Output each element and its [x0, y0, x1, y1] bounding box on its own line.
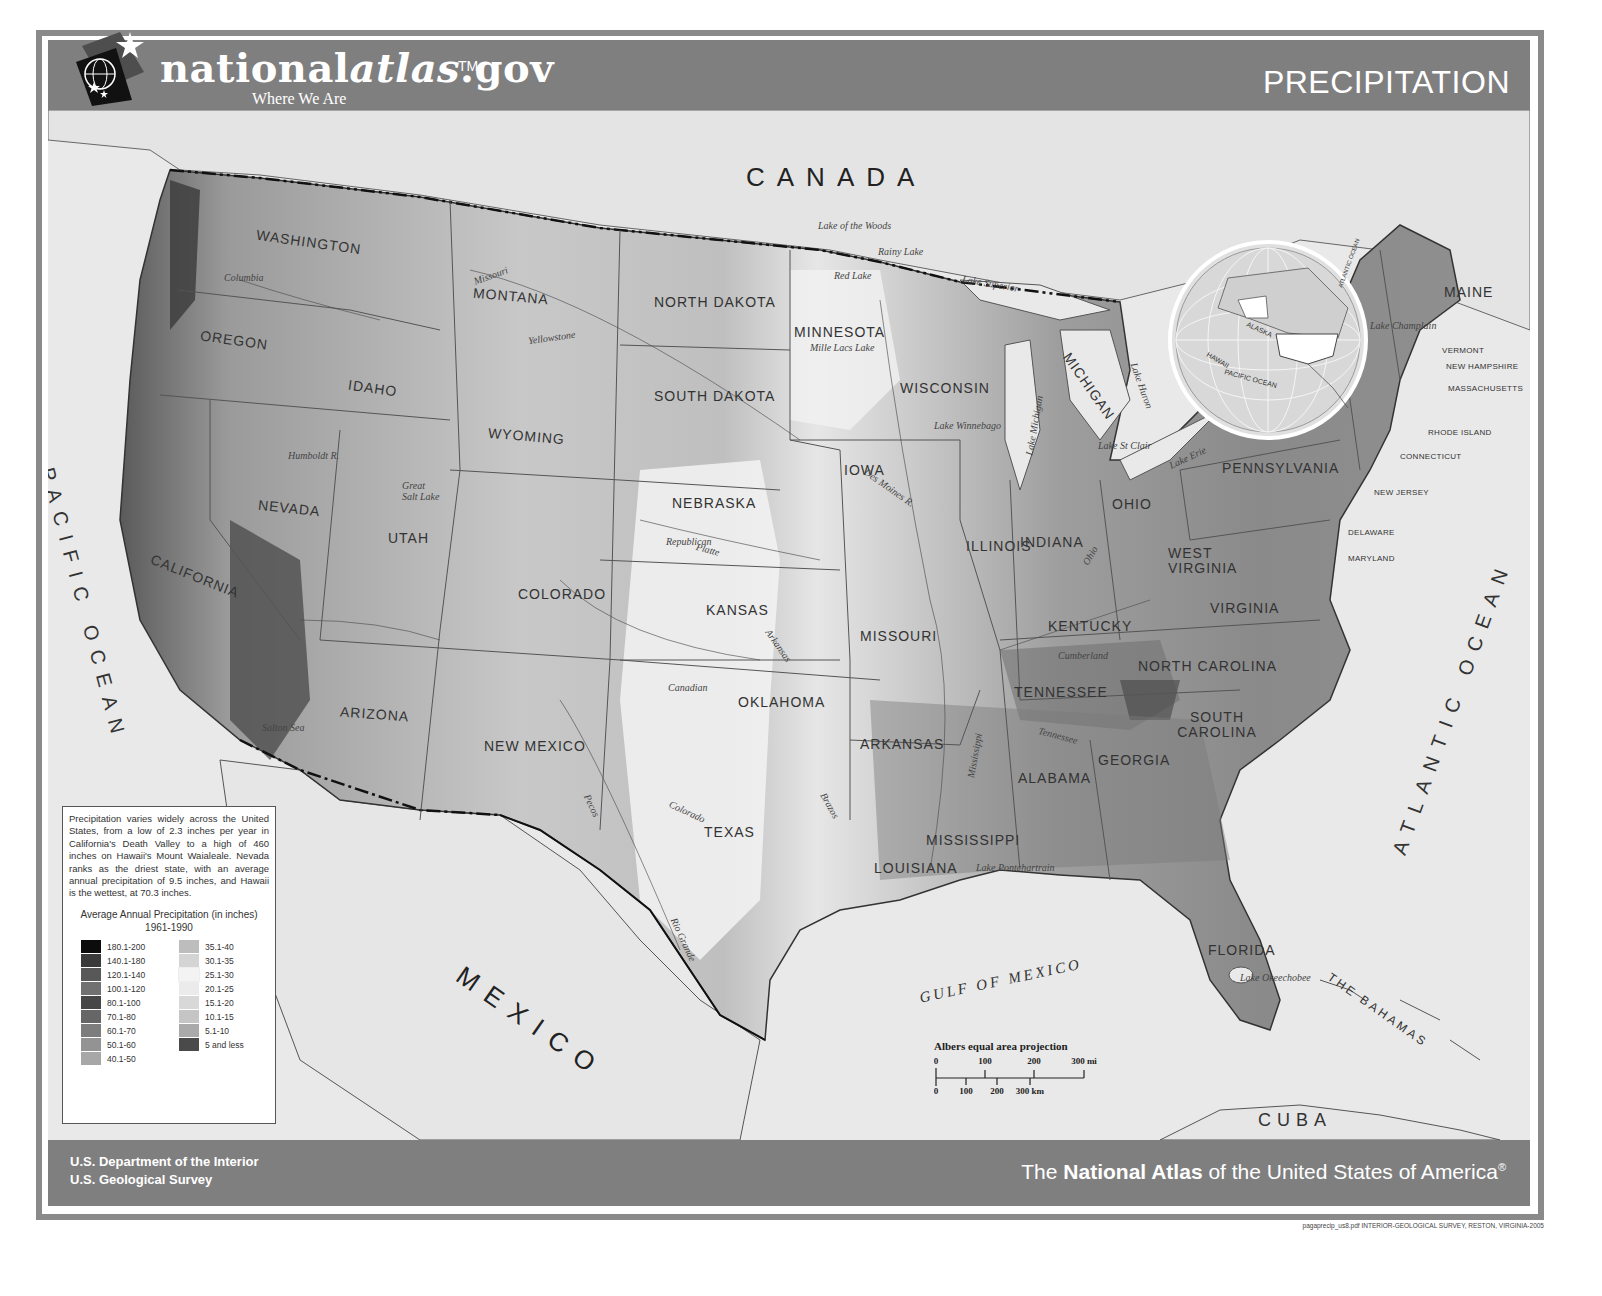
- label-wisconsin: WISCONSIN: [900, 380, 990, 396]
- legend-item: 50.1-60: [81, 1038, 171, 1052]
- svg-text:300 km: 300 km: [1016, 1086, 1045, 1096]
- label-kansas: KANSAS: [706, 602, 769, 618]
- legend-swatch: [81, 968, 101, 981]
- label-missouri: MISSOURI: [860, 628, 937, 644]
- svg-text:0: 0: [934, 1056, 939, 1066]
- legend-item: 60.1-70: [81, 1024, 171, 1038]
- label-new-jersey: NEW JERSEY: [1374, 488, 1429, 497]
- label-canadian-river: Canadian: [668, 682, 707, 693]
- legend-swatch: [179, 1038, 199, 1051]
- label-cuba: CUBA: [1258, 1110, 1332, 1131]
- label-ohio: OHIO: [1112, 496, 1152, 512]
- label-massachusetts: MASSACHUSETTS: [1448, 384, 1523, 393]
- nationalatlas-logo-icon[interactable]: [72, 26, 150, 106]
- label-great-salt-lake: Great Salt Lake: [402, 480, 442, 502]
- legend-description: Precipitation varies widely across the U…: [69, 813, 269, 900]
- legend-swatch: [81, 1052, 101, 1065]
- legend-swatch: [179, 940, 199, 953]
- legend-item: 5 and less: [179, 1038, 269, 1052]
- legend-swatch: [81, 1010, 101, 1023]
- label-canada: CANADA: [746, 162, 926, 193]
- label-lake-of-the-woods: Lake of the Woods: [818, 220, 891, 231]
- label-maine: MAINE: [1444, 284, 1493, 300]
- label-lake-winnebago: Lake Winnebago: [934, 420, 1001, 431]
- legend-item: 100.1-120: [81, 982, 171, 996]
- legend-swatch: [179, 1010, 199, 1023]
- legend-swatch: [81, 982, 101, 995]
- svg-text:ATLANTIC OCEAN: ATLANTIC OCEAN: [1337, 238, 1360, 288]
- label-pennsylvania: PENNSYLVANIA: [1222, 460, 1339, 476]
- label-cumberland-river: Cumberland: [1058, 650, 1108, 661]
- label-rhode-island: RHODE ISLAND: [1428, 428, 1492, 437]
- legend-item: 10.1-15: [179, 1010, 269, 1024]
- legend-swatch: [81, 996, 101, 1009]
- label-minnesota: MINNESOTA: [794, 324, 885, 340]
- legend-swatch: [81, 1024, 101, 1037]
- label-oklahoma: OKLAHOMA: [738, 694, 825, 710]
- svg-text:100: 100: [959, 1086, 973, 1096]
- legend-swatch: [81, 1038, 101, 1051]
- legend-swatch: [179, 996, 199, 1009]
- label-kentucky: KENTUCKY: [1048, 618, 1132, 634]
- label-alabama: ALABAMA: [1018, 770, 1091, 786]
- scale-bar-graphic: 0 100 200 300 mi 0 100 200 300 km: [934, 1052, 1114, 1100]
- svg-text:200: 200: [1027, 1056, 1041, 1066]
- legend-swatch: [81, 954, 101, 967]
- label-republican-river: Republican: [666, 536, 712, 547]
- legend-item: 140.1-180: [81, 954, 171, 968]
- label-south-carolina: SOUTH CAROLINA: [1172, 710, 1262, 740]
- legend-item: 35.1-40: [179, 940, 269, 954]
- legend-item: 5.1-10: [179, 1024, 269, 1038]
- label-lake-pontchartrain: Lake Pontchartrain: [976, 862, 1055, 873]
- label-florida: FLORIDA: [1208, 942, 1276, 958]
- label-utah: UTAH: [388, 530, 429, 546]
- label-maryland: MARYLAND: [1348, 554, 1395, 563]
- legend-panel: Precipitation varies widely across the U…: [62, 806, 276, 1124]
- legend-swatch: [179, 1024, 199, 1037]
- svg-text:300 mi: 300 mi: [1071, 1056, 1097, 1066]
- fineprint-credit: pagaprecip_us8.pdf INTERIOR-GEOLOGICAL S…: [1303, 1222, 1544, 1229]
- legend-swatch: [179, 968, 199, 981]
- label-north-carolina: NORTH CAROLINA: [1138, 658, 1277, 674]
- projection-label: Albers equal area projection: [934, 1040, 1114, 1052]
- label-georgia: GEORGIA: [1098, 752, 1170, 768]
- legend-item: 70.1-80: [81, 1010, 171, 1024]
- label-west-virginia: WEST VIRGINIA: [1168, 546, 1238, 576]
- legend-item: 15.1-20: [179, 996, 269, 1010]
- label-texas: TEXAS: [704, 824, 755, 840]
- label-nebraska: NEBRASKA: [672, 495, 756, 511]
- svg-text:100: 100: [978, 1056, 992, 1066]
- legend-item: 120.1-140: [81, 968, 171, 982]
- label-colorado: COLORADO: [518, 586, 606, 602]
- site-name[interactable]: nationalatlas.gov: [160, 48, 554, 88]
- label-rainy-lake: Rainy Lake: [878, 246, 923, 257]
- label-indiana: INDIANA: [1020, 534, 1084, 550]
- label-north-dakota: NORTH DAKOTA: [654, 294, 776, 310]
- label-connecticut: CONNECTICUT: [1400, 452, 1462, 461]
- label-mississippi: MISSISSIPPI: [926, 832, 1020, 848]
- label-humboldt-river: Humboldt R.: [288, 450, 339, 461]
- inset-globe: ALASKA HAWAII PACIFIC OCEAN ATLANTIC OCE…: [1168, 238, 1368, 442]
- legend-item: 180.1-200: [81, 940, 171, 954]
- site-tagline: Where We Are: [252, 90, 346, 108]
- label-virginia: VIRGINIA: [1210, 600, 1279, 616]
- legend-item: 30.1-35: [179, 954, 269, 968]
- agency-line-2: U.S. Geological Survey: [70, 1171, 259, 1189]
- legend-swatch: [179, 982, 199, 995]
- svg-text:200: 200: [990, 1086, 1004, 1096]
- label-red-lake: Red Lake: [834, 270, 872, 281]
- legend-swatch: [81, 940, 101, 953]
- label-new-hampshire: NEW HAMPSHIRE: [1446, 362, 1518, 371]
- label-columbia-river: Columbia: [224, 272, 263, 283]
- label-lake-st-clair: Lake St Clair: [1098, 440, 1151, 451]
- label-mille-lacs-lake: Mille Lacs Lake: [810, 342, 874, 353]
- label-south-dakota: SOUTH DAKOTA: [654, 388, 775, 404]
- legend-grid: 180.1-200 140.1-180 120.1-140 100.1-120 …: [69, 940, 269, 1066]
- label-louisiana: LOUISIANA: [874, 860, 958, 876]
- legend-item: 25.1-30: [179, 968, 269, 982]
- agency-line-1: U.S. Department of the Interior: [70, 1153, 259, 1171]
- label-lake-champlain: Lake Champlain: [1370, 320, 1436, 331]
- legend-item: 20.1-25: [179, 982, 269, 996]
- label-new-mexico: NEW MEXICO: [484, 738, 586, 754]
- label-vermont: VERMONT: [1442, 346, 1484, 355]
